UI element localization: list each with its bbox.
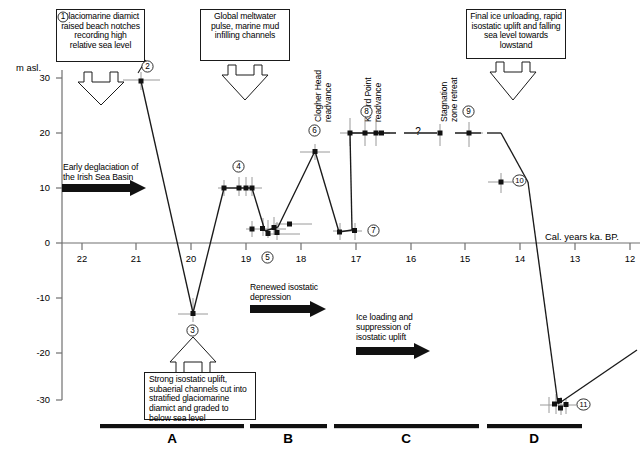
point-marker-11: 11: [576, 398, 591, 411]
point-marker-3-label: 3: [186, 324, 199, 337]
arrow-label-ice-loading: Ice loading and suppression of isostatic…: [356, 313, 413, 343]
point-marker-8: 8: [360, 105, 373, 118]
x-tick-label-19: 19: [232, 253, 260, 264]
uncertain-segment-question-mark: ?: [411, 126, 425, 137]
zone-label-c: C: [386, 431, 426, 446]
event-label-clogher-head: Clogher Head readvance: [314, 70, 334, 122]
callout-1-text: Glaciomarine diamict raised beach notche…: [61, 11, 140, 50]
x-axis-title: Cal. years ka. BP.: [545, 231, 619, 242]
x-tick-label-22: 22: [68, 253, 96, 264]
y-tick-label-10: 10: [18, 182, 50, 193]
point-marker-6-label: 6: [308, 124, 321, 137]
callout-4-text: Strong isostatic uplift, subaerial chann…: [149, 374, 247, 423]
point-marker-2-label: 2: [141, 60, 154, 73]
callout-box-global-meltwater: Global meltwater pulse, marine mud infil…: [200, 9, 290, 61]
arrow-label-early-deglaciation: Early deglaciation of the Irish Sea Basi…: [63, 163, 138, 183]
callout-1-marker-circle: 1: [57, 11, 69, 23]
zone-bar-a: [100, 424, 244, 428]
x-tick-label-18: 18: [287, 253, 315, 264]
point-marker-3: 3: [186, 324, 199, 337]
zone-bar-c: [334, 424, 479, 428]
event-label-stagnation-zone: Stagnation zone retreat: [440, 77, 460, 122]
hollow-arrow-callout-1: [78, 72, 124, 105]
point-marker-2: 2: [141, 60, 154, 73]
point-marker-9: 9: [462, 105, 475, 118]
x-tick-label-12: 12: [616, 253, 643, 264]
callout-1-marker-label: 1: [57, 11, 69, 23]
callout-3-text: Final ice unloading, rapid isostatic upl…: [470, 11, 562, 50]
point-marker-11-label: 11: [576, 398, 591, 411]
point-marker-7-label: 7: [367, 224, 380, 237]
x-tick-label-16: 16: [397, 253, 425, 264]
zone-bar-b: [250, 424, 327, 428]
y-tick-label-20: 20: [18, 127, 50, 138]
y-tick-label-neg30: -30: [14, 394, 50, 405]
point-marker-8-label: 8: [360, 105, 373, 118]
y-ticks: [56, 78, 62, 400]
callout-box-glaciomarine: Glaciomarine diamict raised beach notche…: [56, 9, 145, 62]
callout-box-strong-isostatic-uplift: Strong isostatic uplift, subaerial chann…: [144, 372, 256, 420]
point-marker-4-label: 4: [232, 160, 245, 173]
hollow-arrow-callout-3: [490, 62, 536, 100]
arrow-ice-loading: [356, 343, 430, 359]
point-marker-7: 7: [367, 224, 380, 237]
zone-bar-d: [487, 424, 582, 428]
zone-label-d: D: [514, 431, 554, 446]
point-marker-5-label: 5: [261, 251, 274, 264]
callout-2-text: Global meltwater pulse, marine mud infil…: [211, 11, 279, 40]
point-marker-6: 6: [308, 124, 321, 137]
x-tick-label-20: 20: [177, 253, 205, 264]
point-marker-10-label: 10: [512, 174, 527, 187]
chart-canvas: [0, 0, 643, 458]
point-marker-9-label: 9: [462, 105, 475, 118]
x-tick-label-21: 21: [122, 253, 150, 264]
y-tick-label-0: 0: [18, 237, 50, 248]
callout-box-final-ice-unloading: Final ice unloading, rapid isostatic upl…: [466, 9, 566, 59]
y-tick-label-neg20: -20: [14, 347, 50, 358]
x-ticks: [82, 243, 630, 250]
hollow-arrow-callout-2: [222, 65, 268, 100]
point-marker-10: 10: [512, 174, 527, 187]
x-tick-label-17: 17: [342, 253, 370, 264]
x-tick-label-14: 14: [506, 253, 534, 264]
y-tick-label-30: 30: [18, 72, 50, 83]
zone-bars-group: [100, 424, 582, 428]
zone-label-a: A: [152, 431, 192, 446]
arrow-label-renewed-isostatic: Renewed isostatic depression: [250, 283, 318, 303]
point-marker-4: 4: [232, 160, 245, 173]
zone-label-b: B: [268, 431, 308, 446]
x-tick-label-13: 13: [561, 253, 589, 264]
y-tick-label-neg10: -10: [14, 292, 50, 303]
point-marker-5: 5: [261, 251, 274, 264]
arrow-renewed-isostatic: [250, 301, 326, 317]
hollow-arrow-callout-4: [170, 337, 216, 374]
sea-level-curve-figure: m asl. 30 20 10 0 -10 -20 -30 22 21 20 1…: [0, 0, 643, 458]
x-tick-label-15: 15: [451, 253, 479, 264]
